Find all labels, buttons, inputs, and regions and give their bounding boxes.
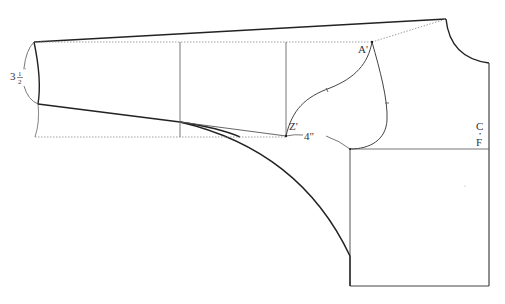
- label-point-z: Z': [289, 120, 298, 132]
- stray-mark: [464, 185, 465, 186]
- label-center-front-f: F: [476, 136, 482, 148]
- neckline-curve: [446, 19, 489, 63]
- measure-arc-upper: [24, 42, 34, 68]
- label-measure-4: 4": [304, 130, 314, 142]
- label-point-a: A': [358, 43, 368, 55]
- point-a-marker: [371, 41, 373, 43]
- label-measure-3-inch: ": [23, 66, 26, 74]
- armhole-back-curve: [350, 42, 387, 149]
- point-z-marker: [285, 135, 287, 137]
- sleeve-lower-extension: [35, 104, 39, 137]
- pattern-diagram: A' Z' 4" 3 1 2 " C • F: [0, 0, 505, 304]
- label-measure-3-num: 1: [18, 70, 22, 78]
- underarm-line: [38, 104, 240, 137]
- measure-4-arc-left: [286, 135, 303, 136]
- label-measure-3-whole: 3: [10, 70, 16, 82]
- side-curve: [180, 122, 350, 256]
- measure-arc-lower: [24, 86, 38, 104]
- armhole-front-curve: [286, 42, 372, 136]
- chest-point-marker: [349, 148, 351, 150]
- measure-4-arc-right: [326, 136, 350, 149]
- label-measure-3-den: 2: [18, 78, 22, 86]
- sleeve-hem-curve: [34, 42, 39, 104]
